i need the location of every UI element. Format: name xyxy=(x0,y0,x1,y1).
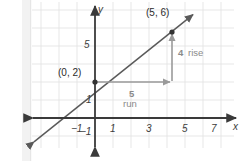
coordinate-plane-figure xyxy=(0,0,247,161)
point-label-0-2: (0, 2) xyxy=(58,68,81,78)
x-tick-label-5: 5 xyxy=(182,124,188,134)
x-axis-name: x xyxy=(233,122,238,132)
page-edge-shadow xyxy=(22,0,31,161)
page-edge-line xyxy=(30,0,31,161)
x-tick-label-neg1: −1 xyxy=(71,124,82,134)
point-0-2 xyxy=(92,79,97,84)
run-word-label: run xyxy=(123,99,137,109)
y-tick-label-1: 1 xyxy=(86,95,92,105)
point-label-5-6: (5, 6) xyxy=(146,8,169,18)
y-tick-label-5: 5 xyxy=(84,40,90,50)
rise-word-label: rise xyxy=(188,48,203,58)
rise-value-label: 4 xyxy=(178,48,183,58)
graph-screenshot: (0, 2) (5, 6) 5 run 4 rise 5 1 −1 −1 1 3… xyxy=(0,0,247,161)
x-tick-label-1: 1 xyxy=(110,124,116,134)
x-tick-label-7: 7 xyxy=(211,124,217,134)
x-tick-label-3: 3 xyxy=(146,124,152,134)
point-5-6 xyxy=(169,29,174,34)
y-axis-name: y xyxy=(98,5,103,15)
figure-background xyxy=(0,0,247,161)
